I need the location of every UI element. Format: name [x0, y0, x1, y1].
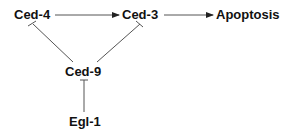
node-ced4: Ced-4 — [14, 7, 50, 22]
edge-ced9-inhibits-ced3 — [97, 24, 140, 62]
node-apoptosis: Apoptosis — [216, 7, 280, 22]
node-ced9: Ced-9 — [65, 64, 101, 79]
node-egl1: Egl-1 — [69, 114, 101, 129]
edge-ced9-inhibits-ced4 — [33, 24, 73, 62]
node-ced3: Ced-3 — [122, 7, 158, 22]
